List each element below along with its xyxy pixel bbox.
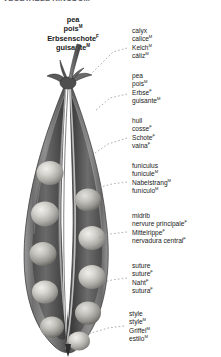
- gender-marker: M: [79, 24, 83, 29]
- gender-marker: M: [149, 43, 152, 48]
- term-text: Griffel: [129, 327, 146, 334]
- gender-marker: F: [148, 141, 151, 146]
- term-text: style: [129, 310, 143, 317]
- gender-marker: M: [157, 96, 160, 101]
- gender-marker: M: [144, 79, 147, 84]
- term: funiculeM: [132, 170, 171, 178]
- term: cálizM: [132, 52, 152, 60]
- pea: [32, 281, 58, 304]
- term-text: hull: [132, 117, 142, 124]
- term: nervadura centralF: [132, 237, 187, 245]
- term-text: nervure principale: [132, 220, 184, 227]
- term-text: Erbse: [132, 89, 149, 96]
- term: KelchM: [132, 44, 152, 52]
- gender-marker: M: [146, 326, 149, 331]
- plate-title-term: pea: [17, 15, 129, 24]
- term: poisM: [132, 80, 160, 88]
- term-text: funículo: [132, 187, 155, 194]
- term-text: cáliz: [132, 52, 145, 59]
- term: nervure principaleF: [132, 220, 187, 228]
- pea: [37, 161, 64, 185]
- plate-title-term-text: pea: [67, 15, 80, 24]
- pea: [40, 317, 64, 338]
- term-text: style: [129, 318, 143, 325]
- term-text: Schote: [132, 134, 153, 141]
- term-text: Nabelstrang: [132, 179, 168, 186]
- term: NabelstrangM: [132, 179, 171, 187]
- plate-title-term-text: pois: [63, 24, 78, 33]
- term: vainaF: [132, 142, 155, 150]
- term-text: Naht: [132, 279, 146, 286]
- callout-midrib: midrib nervure principaleF MittelrippeF …: [132, 212, 187, 246]
- term: guisanteM: [132, 97, 160, 105]
- gender-marker: M: [149, 34, 152, 39]
- pea: [75, 189, 101, 212]
- term-text: sutura: [132, 287, 150, 294]
- pod-half-right: [66, 82, 108, 353]
- gender-marker: F: [150, 286, 153, 291]
- term: sutureF: [132, 270, 153, 278]
- term-text: guisante: [132, 97, 157, 104]
- term-text: pois: [132, 80, 144, 87]
- pea: [79, 226, 106, 250]
- term-text: calyx: [132, 27, 147, 34]
- pea: [75, 302, 101, 325]
- pea: [31, 202, 59, 227]
- gender-marker: M: [145, 51, 148, 56]
- term: suturaF: [132, 287, 153, 295]
- callout-pea: pea poisM ErbseF guisanteM: [132, 72, 160, 106]
- gender-marker: F: [162, 228, 165, 233]
- term-text: suture: [132, 262, 150, 269]
- term: SchoteF: [132, 134, 155, 142]
- term: estiloM: [129, 335, 150, 343]
- term: MittelrippeF: [132, 229, 187, 237]
- gender-marker: M: [143, 317, 146, 322]
- term-text: suture: [132, 270, 150, 277]
- term-text: midrib: [132, 212, 150, 219]
- term-text: cosse: [132, 125, 149, 132]
- term-text: vaina: [132, 142, 148, 149]
- gender-marker: F: [150, 269, 153, 274]
- term-text: pea: [132, 72, 143, 79]
- gender-marker: M: [144, 334, 147, 339]
- callout-suture: suture sutureF NahtF suturaF: [132, 262, 153, 296]
- calyx-base: [60, 77, 76, 89]
- term-text: funicule: [132, 170, 155, 177]
- pea: [79, 265, 106, 289]
- pea-pod-illustration: [0, 38, 135, 357]
- pea: [68, 332, 90, 351]
- term-text: Kelch: [132, 44, 149, 51]
- term-text: Mittelrippe: [132, 229, 162, 236]
- gender-marker: F: [183, 236, 186, 241]
- term-text: calice: [132, 35, 149, 42]
- pea: [30, 242, 57, 266]
- gender-marker: M: [168, 178, 171, 183]
- gender-marker: F: [149, 88, 152, 93]
- gender-marker: F: [153, 133, 156, 138]
- page-header: VEGETABLE KINGDOM: [3, 0, 143, 2]
- callout-funiculus: funiculus funiculeM NabelstrangM funícul…: [132, 162, 171, 196]
- gender-marker: M: [155, 186, 158, 191]
- callout-style: style styleM GriffelM estiloM: [129, 310, 150, 344]
- callout-calyx: calyx caliceM KelchM cálizM: [132, 27, 152, 61]
- gender-marker: F: [146, 278, 149, 283]
- gender-marker: M: [155, 169, 158, 174]
- plate-title-term: poisM: [17, 24, 129, 33]
- term-text: estilo: [129, 335, 144, 342]
- calyx-group: [47, 44, 92, 89]
- term-text: funiculus: [132, 162, 158, 169]
- callout-hull: hull cosseF SchoteF vainaF: [132, 117, 155, 151]
- gender-marker: F: [184, 219, 187, 224]
- gender-marker: F: [149, 124, 152, 129]
- term: funículoM: [132, 187, 171, 195]
- term-text: nervadura central: [132, 237, 183, 244]
